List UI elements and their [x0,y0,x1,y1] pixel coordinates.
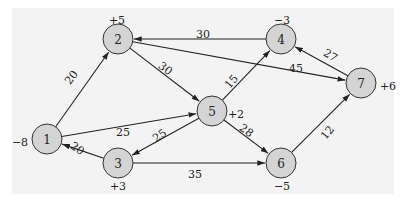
node-label: 2 [114,33,122,47]
edge-cost-label: 30 [196,28,210,41]
node-supply-label: −3 [274,14,290,27]
edge-cost-label: 25 [116,126,130,139]
node-supply-label: −8 [12,136,28,149]
node-label: 6 [277,157,285,171]
node-label: 1 [43,133,51,147]
node-supply-label: +2 [228,108,244,121]
node-supply-label: +6 [380,80,396,93]
node-label: 5 [208,105,216,119]
node-label: 7 [357,77,365,91]
node-label: 4 [277,33,285,47]
node-label: 3 [114,157,122,171]
network-diagram: 202530453015252820352712 1−82+53+34−35+2… [0,0,408,205]
node-supply-label: −5 [274,180,290,193]
edge-cost-label: 35 [188,168,202,181]
node-supply-label: +3 [110,180,126,193]
edge-cost-label: 45 [289,62,303,75]
node-supply-label: +5 [109,14,125,27]
